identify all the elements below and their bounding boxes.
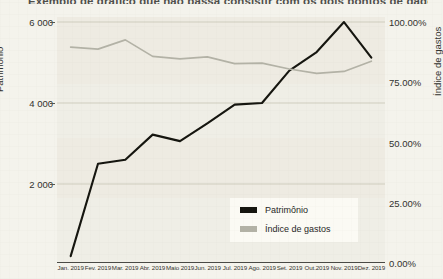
y-axis-left-tick-2000: 2 000 [0, 179, 53, 190]
x-axis-label: Out.2019 [303, 264, 330, 276]
x-axis-label: Nov. 2019 [330, 264, 357, 276]
y-axis-left-tick-4000: 4 000 [0, 98, 53, 109]
y-axis-right-tick-75: 75.00% [389, 77, 421, 88]
legend-label-indice-de-gastos: Índice de gastos [265, 224, 331, 234]
y-axis-right-title: Índice de gastos [432, 27, 443, 96]
y-axis-right-tick-100: 100.00% [389, 17, 427, 28]
y-axis-left-tick-6000: 6 000 [0, 17, 53, 28]
chart-title: Exemplo de gráfico que não passa consist… [28, 0, 428, 4]
x-axis-line [57, 262, 385, 263]
x-axis-label: Jul. 2019 [221, 264, 248, 276]
x-axis-label: Jan. 2019 [57, 264, 84, 276]
y-axis-left-title: Patrimônio [0, 47, 5, 92]
x-axis-label: Jun. 2019 [194, 264, 221, 276]
x-axis-label: Mar. 2019 [112, 264, 139, 276]
x-axis-label: Ago. 2019 [249, 264, 276, 276]
x-axis-label: Abr. 2019 [139, 264, 166, 276]
x-axis-label: Dez. 2019 [358, 264, 385, 276]
x-axis-label: Maio 2019 [166, 264, 194, 276]
y-axis-left-tickmark [50, 103, 55, 104]
y-axis-left-tickmark [50, 22, 55, 23]
x-axis-label: Fev. 2019 [84, 264, 111, 276]
legend-label-patrimonio: Patrimônio [265, 205, 308, 215]
y-axis-right-tick-50: 50.00% [389, 138, 421, 149]
series-line-indice-de-gastos [71, 40, 372, 74]
legend-swatch-patrimonio [240, 207, 257, 213]
x-axis-labels: Jan. 2019Fev. 2019Mar. 2019Abr. 2019Maio… [57, 264, 385, 276]
y-axis-right-tick-0: 0.00% [389, 258, 416, 269]
y-axis-right-tick-25: 25.00% [389, 198, 421, 209]
x-axis-label: Set. 2019 [276, 264, 303, 276]
chart-legend: Patrimônio Índice de gastos [230, 198, 358, 242]
legend-item-indice-de-gastos[interactable]: Índice de gastos [240, 224, 349, 234]
legend-swatch-indice-de-gastos [240, 226, 257, 232]
y-axis-left-tickmark [50, 184, 55, 185]
legend-item-patrimonio[interactable]: Patrimônio [240, 205, 349, 215]
